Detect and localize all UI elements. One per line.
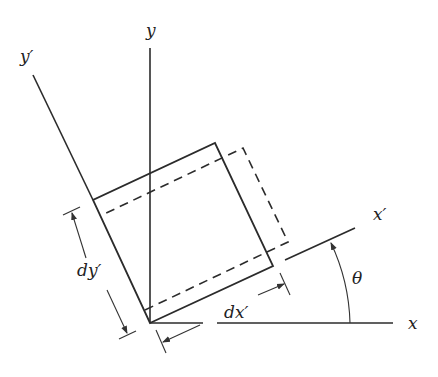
theta-label: θ [352,268,362,288]
dx-prime-arrow-right [258,284,284,295]
dy-prime-arrow-up [72,213,86,258]
dy-prime-tick-bottom [119,331,136,339]
y-prime-axis-line [33,75,93,200]
y-axis-label: y [145,20,156,40]
x-axis-label: x [408,313,418,333]
x-prime-axis-line [285,228,355,260]
shaded-element [93,143,273,323]
y-prime-axis-label: y′ [19,46,34,66]
dy-prime-arrow-down [107,290,127,333]
x-prime-axis-label: x′ [373,204,387,224]
dx-prime-arrow-left [163,325,200,342]
theta-arc [331,243,350,323]
dashed-deformed-outline [100,148,288,310]
dy-prime-label: dy′ [77,260,101,280]
stress-element-diagram: y x y′ x′ dy′ dx′ θ [0,0,438,377]
dx-prime-tick-right [280,273,290,295]
dx-prime-label: dx′ [224,302,248,322]
dy-prime-tick-top [63,207,80,215]
